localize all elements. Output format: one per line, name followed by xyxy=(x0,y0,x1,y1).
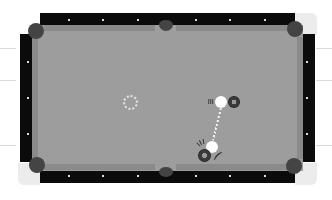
diamond-marker xyxy=(27,97,29,99)
collision-object-ball xyxy=(198,149,211,162)
cushion-bottom-left xyxy=(44,164,155,170)
background-line xyxy=(0,80,16,81)
diamond-marker xyxy=(229,175,231,177)
cushion-left xyxy=(32,37,38,159)
background-line xyxy=(0,145,16,146)
cushion-right xyxy=(297,37,303,159)
pocket-top-left xyxy=(28,23,44,39)
diamond-marker xyxy=(264,175,266,177)
diamond-marker xyxy=(102,175,104,177)
pocket-bottom-middle xyxy=(159,167,173,177)
cue-stick-tip-icon[interactable] xyxy=(208,99,214,104)
diamond-marker xyxy=(306,97,308,99)
pocket-bottom-right xyxy=(286,158,302,174)
diamond-marker xyxy=(27,61,29,63)
diamond-marker xyxy=(195,19,197,21)
background-line xyxy=(316,48,332,49)
table-cloth[interactable] xyxy=(32,25,303,171)
background-line xyxy=(316,145,332,146)
diamond-marker xyxy=(68,19,70,21)
cushion-bottom-right xyxy=(176,164,290,170)
diamond-marker xyxy=(229,19,231,21)
background-line xyxy=(0,48,16,49)
aim-spot-marker[interactable] xyxy=(123,95,138,110)
diamond-marker xyxy=(137,19,139,21)
diamond-marker xyxy=(306,61,308,63)
diamond-marker xyxy=(137,175,139,177)
cushion-top-right xyxy=(176,25,290,31)
right-rail xyxy=(302,34,315,162)
cushion-top-left xyxy=(44,25,155,31)
diamond-marker xyxy=(195,175,197,177)
pocket-top-right xyxy=(287,21,303,37)
pocket-bottom-left xyxy=(29,157,45,173)
background-line xyxy=(316,80,332,81)
diamond-marker xyxy=(264,19,266,21)
diamond-marker xyxy=(68,175,70,177)
diamond-marker xyxy=(27,133,29,135)
diamond-marker xyxy=(306,133,308,135)
diamond-marker xyxy=(102,19,104,21)
cue-ball[interactable] xyxy=(215,96,227,108)
object-ball xyxy=(228,96,240,108)
